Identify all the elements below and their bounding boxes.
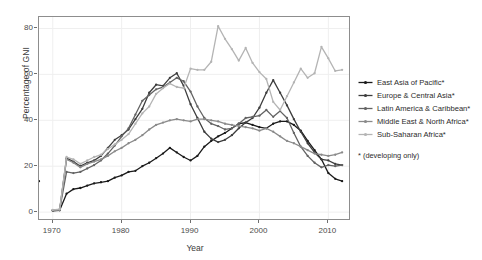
data-point xyxy=(169,77,171,79)
legend-item[interactable]: Middle East & North Africa* xyxy=(358,115,480,128)
legend-item-label: Latin America & Caribbean* xyxy=(377,103,470,114)
data-point xyxy=(307,155,309,157)
data-point xyxy=(224,38,226,40)
data-point xyxy=(203,146,205,148)
data-point xyxy=(93,182,95,184)
data-point xyxy=(341,151,343,153)
y-tick-mark xyxy=(34,211,37,212)
data-point xyxy=(39,180,40,182)
data-point xyxy=(210,123,212,125)
data-point xyxy=(148,105,150,107)
data-point xyxy=(231,127,233,129)
data-point xyxy=(134,123,136,125)
data-point xyxy=(238,127,240,129)
data-point xyxy=(210,61,212,63)
legend-footnote: * (developing only) xyxy=(358,151,480,160)
legend-item-label: Middle East & North Africa* xyxy=(377,116,469,127)
data-point xyxy=(65,193,67,195)
data-point xyxy=(224,128,226,130)
data-point xyxy=(203,69,205,71)
data-point xyxy=(203,131,205,133)
data-point xyxy=(114,150,116,152)
data-point xyxy=(176,77,178,79)
legend-item-label: East Asia of Pacific* xyxy=(377,77,445,88)
data-point xyxy=(134,113,136,115)
data-point xyxy=(265,78,267,80)
data-point xyxy=(334,163,336,165)
data-point xyxy=(189,159,191,161)
data-point xyxy=(293,132,295,134)
y-tick-label: 80 xyxy=(24,23,33,32)
data-point xyxy=(176,72,178,74)
legend-item[interactable]: Europe & Central Asia* xyxy=(358,89,480,102)
data-point xyxy=(93,156,95,158)
data-point xyxy=(327,159,329,161)
legend-item-label: Sub-Saharan Africa* xyxy=(377,129,446,140)
data-point xyxy=(127,142,129,144)
data-point xyxy=(293,81,295,83)
data-point xyxy=(293,124,295,126)
data-point xyxy=(313,162,315,164)
data-point xyxy=(217,141,219,143)
data-point xyxy=(238,59,240,61)
data-point xyxy=(162,121,164,123)
data-point xyxy=(72,162,74,164)
data-point xyxy=(272,131,274,133)
data-point xyxy=(265,109,267,111)
data-point xyxy=(245,121,247,123)
data-point xyxy=(189,120,191,122)
data-point xyxy=(203,118,205,120)
chart-container: Percentage of GNI Year 020406080 1970198… xyxy=(0,0,482,260)
data-point xyxy=(231,124,233,126)
data-point xyxy=(307,149,309,151)
data-point xyxy=(307,142,309,144)
data-point xyxy=(300,68,302,70)
data-point xyxy=(86,167,88,169)
data-point xyxy=(196,105,198,107)
data-point xyxy=(334,70,336,72)
legend-line-icon xyxy=(358,77,373,88)
data-point xyxy=(300,146,302,148)
data-point xyxy=(334,178,336,180)
data-point xyxy=(245,126,247,128)
data-point xyxy=(307,77,309,79)
data-point xyxy=(251,127,253,129)
legend-item[interactable]: East Asia of Pacific* xyxy=(358,76,480,89)
data-point xyxy=(86,163,88,165)
data-point xyxy=(286,117,288,119)
legend-line-icon xyxy=(358,103,373,114)
data-point xyxy=(279,135,281,137)
data-point xyxy=(93,160,95,162)
data-point xyxy=(134,118,136,120)
legend-item[interactable]: Latin America & Caribbean* xyxy=(358,102,480,115)
x-tick-label: 1990 xyxy=(181,226,199,235)
data-point xyxy=(320,154,322,156)
data-point xyxy=(79,187,81,189)
data-point xyxy=(224,132,226,134)
data-point xyxy=(114,143,116,145)
data-point xyxy=(210,119,212,121)
plot-svg xyxy=(39,17,349,219)
legend-line-icon xyxy=(358,90,373,101)
data-point xyxy=(327,164,329,166)
data-point xyxy=(300,131,302,133)
legend-item[interactable]: Sub-Saharan Africa* xyxy=(358,128,480,141)
data-point xyxy=(100,158,102,160)
data-point xyxy=(272,101,274,103)
data-point xyxy=(155,157,157,159)
data-point xyxy=(217,135,219,137)
data-point xyxy=(196,118,198,120)
data-point xyxy=(148,128,150,130)
data-point xyxy=(258,126,260,128)
data-point xyxy=(293,142,295,144)
data-point xyxy=(141,112,143,114)
data-point xyxy=(141,100,143,102)
data-point xyxy=(148,94,150,96)
data-point xyxy=(121,135,123,137)
data-point xyxy=(189,68,191,70)
data-point xyxy=(320,166,322,168)
data-point xyxy=(327,57,329,59)
data-point xyxy=(238,125,240,127)
data-point xyxy=(189,103,191,105)
data-point xyxy=(155,88,157,90)
